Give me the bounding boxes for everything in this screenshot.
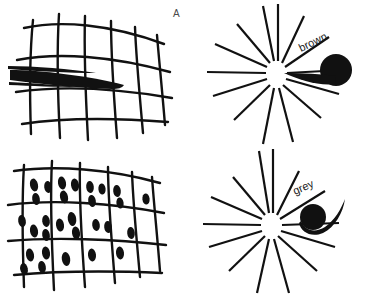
dot (17, 214, 27, 227)
panel-c: brown C (189, 0, 378, 147)
dot (41, 215, 50, 228)
dot (55, 218, 65, 232)
dot (91, 219, 100, 232)
grid-line-h (24, 24, 164, 44)
dot (86, 181, 95, 194)
dot (87, 248, 96, 262)
ray (263, 6, 274, 61)
grid-line-h (8, 202, 164, 213)
ray (237, 24, 270, 63)
ray (257, 239, 269, 293)
ray (211, 197, 262, 219)
ray (203, 224, 261, 225)
figure-canvas: A (0, 0, 378, 294)
grid-line-h (22, 119, 168, 124)
ray (259, 151, 269, 213)
dot (61, 251, 71, 266)
ray (274, 239, 289, 293)
ray (263, 88, 274, 144)
dot (70, 178, 80, 192)
tadpole-label-brown: brown (297, 30, 329, 54)
dot (115, 246, 124, 260)
grid-line-v (135, 27, 143, 133)
dot (127, 227, 136, 240)
ray (207, 72, 266, 73)
panel-c-drawing: brown (189, 0, 378, 147)
panel-d-tadpole (299, 199, 345, 235)
dot (29, 178, 40, 192)
grid-line-h (16, 89, 172, 98)
ray (283, 85, 321, 118)
ray (215, 44, 267, 67)
panel-b-drawing (0, 147, 189, 294)
panel-a: A (0, 0, 189, 147)
panel-a-drawing (0, 0, 189, 147)
dot (37, 260, 47, 273)
ray (234, 85, 270, 120)
ray (209, 231, 262, 247)
grid-line-v (80, 163, 85, 287)
grid-line-v (157, 35, 165, 125)
ray (213, 79, 267, 96)
ray (279, 88, 293, 142)
grid-line-v (152, 177, 160, 271)
panel-d: grey D (189, 147, 378, 294)
dot (142, 193, 150, 205)
dot (41, 246, 51, 260)
panel-a-brush-wedge (8, 66, 124, 89)
grid-line-h (8, 239, 166, 245)
ray (229, 236, 265, 271)
grid-line-v (132, 172, 140, 277)
dot (87, 194, 97, 207)
panel-d-drawing: grey (189, 147, 378, 294)
dot (25, 248, 35, 262)
panel-letter-a: A (173, 9, 180, 19)
ray (278, 236, 317, 271)
dot (113, 185, 122, 198)
dot (29, 224, 39, 238)
grid-line-v (51, 161, 54, 290)
panel-b: B (0, 147, 189, 294)
dot (98, 183, 106, 195)
dot (67, 211, 78, 226)
dot (57, 176, 67, 190)
